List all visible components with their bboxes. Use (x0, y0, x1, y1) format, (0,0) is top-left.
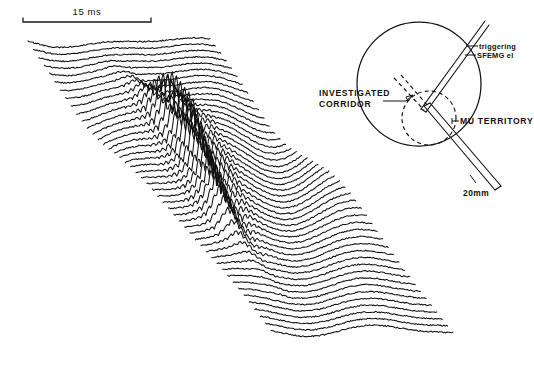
emg-trace (33, 44, 215, 55)
emg-trace (266, 318, 448, 330)
mu-territory-label: MU TERRITORY (460, 116, 533, 126)
emg-trace (233, 278, 415, 293)
investigated-corridor-label-line1: INVESTIGATED (319, 88, 390, 98)
time-scale-bar: 15 ms (23, 6, 151, 22)
emg-trace (228, 270, 410, 286)
investigated-corridor-label-line2: CORRIDOR (319, 99, 371, 109)
scanning-emg-figure: 15 ms (0, 0, 534, 387)
triggering-electrode-label-line2: SFEMG el (477, 51, 514, 60)
emg-trace (271, 325, 453, 337)
electrode-schematic-diagram: triggering SFEMG el INVESTIGATED CORRIDO… (319, 21, 533, 198)
emg-waterfall-plot (28, 37, 453, 337)
emg-trace (114, 87, 296, 160)
emg-trace (190, 207, 372, 243)
scanning-needle-shaft-end (495, 186, 501, 190)
triggering-electrode-label-line1: triggering (479, 42, 516, 51)
sfemg-needle-tip (421, 109, 426, 112)
spatial-scale-tick (470, 175, 476, 183)
spatial-scale-marker (470, 175, 476, 183)
emg-trace (131, 104, 313, 178)
figure-canvas: 15 ms (0, 0, 534, 387)
muscle-cross-section-circle (357, 22, 481, 146)
corridor-ray-a (394, 78, 424, 110)
spatial-scale-label: 20mm (463, 188, 489, 198)
sfemg-needle-edge-a (421, 21, 485, 109)
emg-trace (244, 291, 426, 305)
emg-trace (39, 50, 221, 62)
emg-trace (260, 311, 442, 324)
emg-trace (28, 37, 210, 48)
investigated-corridor-marker (394, 75, 428, 110)
emg-trace (206, 241, 388, 261)
time-scale-label: 15 ms (73, 6, 102, 17)
time-scale-bar-line (23, 18, 151, 23)
